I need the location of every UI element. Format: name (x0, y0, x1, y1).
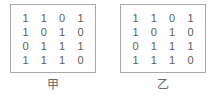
matrix-row: 1 1 0 1 (20, 11, 86, 25)
matrix-row: 1 0 1 0 (130, 25, 196, 39)
matrix-cell: 1 (57, 25, 68, 39)
matrix-cell: 1 (20, 53, 31, 67)
matrix-cell: 0 (75, 25, 86, 39)
matrix-box-jia: 1 1 0 1 1 0 1 0 0 1 1 1 1 1 1 0 (10, 4, 96, 73)
matrix-cell: 1 (148, 11, 159, 25)
matrix-cell: 1 (185, 11, 196, 25)
matrix-row: 1 0 1 0 (20, 25, 86, 39)
matrix-cell: 0 (20, 39, 31, 53)
matrix-cell: 1 (20, 11, 31, 25)
matrix-cell: 1 (148, 39, 159, 53)
binary-matrix-figure: 1 1 0 1 1 0 1 0 0 1 1 1 1 1 1 0 (0, 0, 214, 106)
matrix-row: 1 1 0 1 (130, 11, 196, 25)
panel-label-jia: 甲 (10, 78, 96, 92)
matrix-cell: 1 (20, 25, 31, 39)
matrix-cell: 1 (38, 11, 49, 25)
matrix-row: 0 1 1 1 (130, 39, 196, 53)
matrix-cell: 1 (57, 53, 68, 67)
panel-label-yi: 乙 (120, 78, 206, 92)
matrix-cell: 1 (185, 39, 196, 53)
matrix-row: 1 1 1 0 (130, 53, 196, 67)
matrix-cell: 0 (185, 53, 196, 67)
matrix-cell: 1 (38, 39, 49, 53)
matrix-cell: 0 (167, 11, 178, 25)
matrix-cell: 0 (130, 39, 141, 53)
matrix-cell: 0 (57, 11, 68, 25)
matrix-cell: 1 (75, 11, 86, 25)
matrix-cell: 1 (167, 53, 178, 67)
matrix-cell: 0 (38, 25, 49, 39)
matrix-cell: 1 (75, 39, 86, 53)
panel-yi: 1 1 0 1 1 0 1 0 0 1 1 1 1 1 1 0 (120, 4, 206, 92)
matrix-row: 0 1 1 1 (20, 39, 86, 53)
matrix-row: 1 1 1 0 (20, 53, 86, 67)
matrix-cell: 1 (57, 39, 68, 53)
matrix-cell: 1 (38, 53, 49, 67)
matrix-cell: 1 (130, 11, 141, 25)
matrix-cell: 0 (75, 53, 86, 67)
matrix-box-yi: 1 1 0 1 1 0 1 0 0 1 1 1 1 1 1 0 (120, 4, 206, 73)
matrix-cell: 0 (185, 25, 196, 39)
matrix-cell: 1 (167, 39, 178, 53)
matrix-cell: 1 (148, 53, 159, 67)
matrix-cell: 1 (130, 25, 141, 39)
panel-jia: 1 1 0 1 1 0 1 0 0 1 1 1 1 1 1 0 (10, 4, 96, 92)
matrix-cell: 1 (167, 25, 178, 39)
matrix-cell: 0 (148, 25, 159, 39)
matrix-cell: 1 (130, 53, 141, 67)
